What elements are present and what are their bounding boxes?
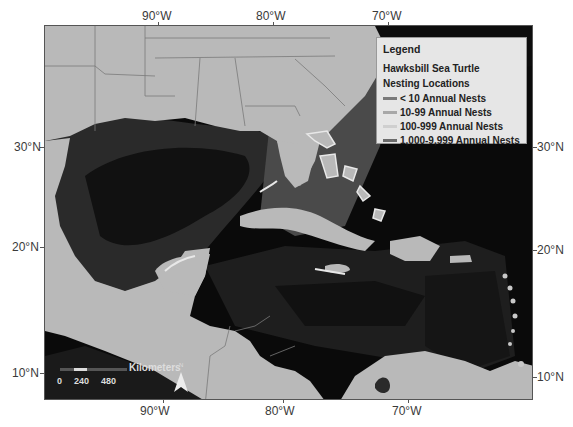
legend-heading: Legend [383, 43, 520, 55]
lat-label-right-20n: 20°N [537, 243, 564, 257]
lon-label-top-70w: 70°W [372, 9, 401, 23]
lat-label-right-30n: 30°N [537, 140, 564, 154]
tick-left-20n [40, 247, 44, 248]
legend-swatch-lt10 [383, 97, 397, 100]
legend-subtitle-line1: Hawksbill Sea Turtle [383, 61, 520, 76]
lon-label-bottom-90w: 90°W [140, 404, 169, 418]
legend-label-1000-9999: 1,000-9,999 Annual Nests [400, 135, 520, 146]
scale-bar-tick-0: 0 [57, 376, 62, 386]
north-arrow-icon [172, 364, 190, 394]
legend-label-10-99: 10-99 Annual Nests [400, 107, 492, 118]
legend-swatch-100-999 [383, 125, 397, 128]
lon-label-top-80w: 80°W [256, 9, 285, 23]
legend-swatch-1000-9999 [383, 139, 397, 142]
lon-label-top-90w: 90°W [142, 9, 171, 23]
legend-item-lt10: < 10 Annual Nests [383, 91, 520, 105]
legend-item-10-99: 10-99 Annual Nests [383, 105, 520, 119]
lat-label-left-10n: 10°N [12, 366, 39, 380]
scale-bar-segment-1 [60, 368, 74, 371]
lat-label-left-20n: 20°N [12, 240, 39, 254]
north-arrow: N [172, 364, 190, 394]
north-arrow-label: N [179, 362, 183, 368]
tick-bottom-90w [163, 399, 164, 403]
tick-bottom-80w [283, 399, 284, 403]
lat-label-left-30n: 30°N [14, 140, 41, 154]
legend-swatch-10-99 [383, 111, 397, 114]
tick-bottom-70w [408, 399, 409, 403]
lon-label-bottom-80w: 80°W [265, 404, 294, 418]
legend-subtitle-line2: Nesting Locations [383, 76, 520, 91]
lon-label-bottom-70w: 70°W [392, 404, 421, 418]
legend-item-100-999: 100-999 Annual Nests [383, 119, 520, 133]
map-legend: Legend Hawksbill Sea Turtle Nesting Loca… [376, 37, 527, 144]
legend-item-1000-9999: 1,000-9,999 Annual Nests [383, 133, 520, 147]
scale-bar-segment-3 [87, 368, 127, 371]
legend-label-lt10: < 10 Annual Nests [400, 93, 486, 104]
legend-label-100-999: 100-999 Annual Nests [400, 121, 503, 132]
tick-left-10n [40, 373, 44, 374]
scale-bar-segment-2 [74, 368, 87, 371]
scale-bar-tick-480: 480 [101, 376, 116, 386]
scale-bar-tick-240: 240 [74, 376, 89, 386]
lat-label-right-10n: 10°N [537, 370, 564, 384]
